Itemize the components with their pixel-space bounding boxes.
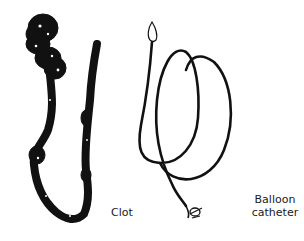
catheter-drawing: [139, 22, 230, 218]
clot-drawing: [26, 14, 97, 219]
catheter-label: Balloon catheter: [248, 193, 302, 219]
clot-label: Clot: [111, 206, 133, 219]
catheter-label-line1: Balloon: [248, 193, 302, 206]
figure-canvas: Clot Balloon catheter: [0, 0, 304, 241]
catheter-label-line2: catheter: [248, 206, 302, 219]
